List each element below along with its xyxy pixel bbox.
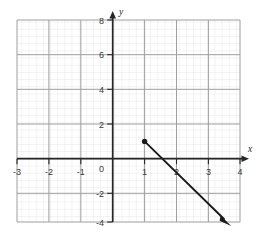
- grid-minor-lines: [17, 20, 240, 222]
- x-axis-label: x: [247, 144, 253, 154]
- x-tick-label: 3: [206, 167, 211, 177]
- y-tick-label: 2: [99, 120, 104, 130]
- y-tick-label: -4: [96, 218, 104, 228]
- y-axis-label: y: [118, 7, 124, 17]
- y-tick-label: 8: [99, 16, 104, 26]
- graph-figure: -3 -2 -1 1 2 3 4 8 6 4 2 -2 -4 0 x y: [0, 0, 259, 238]
- x-tick-label: -2: [45, 167, 53, 177]
- y-tick-label: -2: [96, 189, 104, 199]
- x-tick-label: 1: [142, 167, 147, 177]
- x-tick-label: -3: [13, 167, 21, 177]
- x-tick-label: 4: [237, 167, 242, 177]
- y-tick-label: 6: [99, 50, 104, 60]
- ray-start-point-marker: [142, 139, 147, 144]
- x-tick-label: -1: [77, 167, 85, 177]
- y-tick-label: 4: [99, 85, 104, 95]
- origin-label: 0: [99, 164, 104, 174]
- coordinate-plane: -3 -2 -1 1 2 3 4 8 6 4 2 -2 -4 0 x y: [0, 0, 259, 238]
